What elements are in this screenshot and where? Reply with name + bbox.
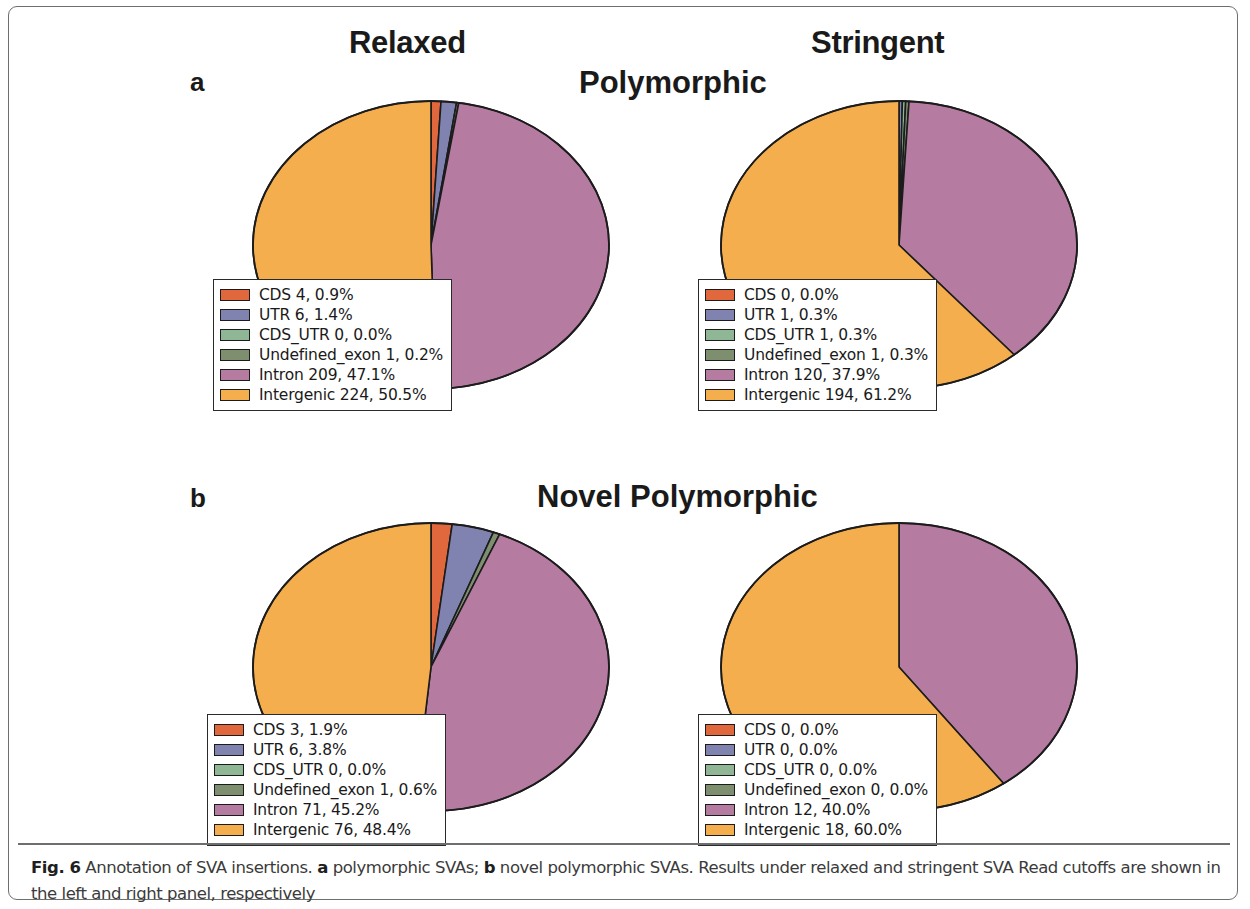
legend-label: CDS_UTR 1, 0.3%: [744, 326, 877, 344]
legend-swatch-intron: [705, 369, 735, 381]
pie-chart-polymorphic-stringent: CDS 0, 0.0%UTR 1, 0.3%CDS_UTR 1, 0.3%Und…: [709, 97, 1089, 397]
legend-row: Intron 12, 40.0%: [705, 800, 928, 820]
legend-swatch-intron: [220, 369, 250, 381]
legend-swatch-intergenic: [705, 824, 735, 836]
legend-label: Undefined_exon 1, 0.6%: [253, 781, 437, 799]
figure-caption: Fig. 6 Annotation of SVA insertions. a p…: [31, 855, 1221, 907]
pie-legend-a-relaxed: CDS 4, 0.9%UTR 6, 1.4%CDS_UTR 0, 0.0%Und…: [213, 279, 452, 411]
legend-swatch-cds: [214, 724, 244, 736]
row-title-novel-polymorphic: Novel Polymorphic: [537, 479, 818, 515]
legend-swatch-intergenic: [705, 389, 735, 401]
pie-legend-b-relaxed: CDS 3, 1.9%UTR 6, 3.8%CDS_UTR 0, 0.0%Und…: [207, 714, 446, 846]
legend-row: CDS 0, 0.0%: [705, 720, 928, 740]
legend-label: CDS 0, 0.0%: [744, 721, 838, 739]
legend-swatch-cds: [220, 289, 250, 301]
legend-swatch-intron: [705, 804, 735, 816]
caption-text-2: polymorphic SVAs;: [328, 858, 484, 877]
panel-letter-a: a: [190, 67, 204, 98]
legend-row: CDS_UTR 1, 0.3%: [705, 325, 928, 345]
legend-label: CDS 3, 1.9%: [253, 721, 347, 739]
legend-swatch-cds: [705, 724, 735, 736]
legend-swatch-intergenic: [214, 824, 244, 836]
legend-row: Undefined_exon 0, 0.0%: [705, 780, 928, 800]
legend-label: Intron 12, 40.0%: [744, 801, 870, 819]
legend-swatch-utr: [705, 744, 735, 756]
caption-text-1: Annotation of SVA insertions.: [81, 858, 318, 877]
legend-label: CDS 4, 0.9%: [259, 286, 353, 304]
figure-frame: Relaxed Stringent a Polymorphic CDS 4, 0…: [8, 6, 1238, 900]
legend-row: Undefined_exon 1, 0.2%: [220, 345, 443, 365]
legend-swatch-utr: [705, 309, 735, 321]
legend-row: Undefined_exon 1, 0.6%: [214, 780, 437, 800]
legend-label: Undefined_exon 0, 0.0%: [744, 781, 928, 799]
legend-label: Intergenic 194, 61.2%: [744, 386, 912, 404]
legend-row: Intron 71, 45.2%: [214, 800, 437, 820]
column-header-relaxed: Relaxed: [349, 25, 466, 61]
legend-row: CDS_UTR 0, 0.0%: [214, 760, 437, 780]
legend-swatch-utr: [220, 309, 250, 321]
legend-label: UTR 6, 1.4%: [259, 306, 352, 324]
legend-row: CDS 4, 0.9%: [220, 285, 443, 305]
pie-chart-novel-polymorphic-stringent: CDS 0, 0.0%UTR 0, 0.0%CDS_UTR 0, 0.0%Und…: [709, 519, 1089, 819]
legend-row: UTR 0, 0.0%: [705, 740, 928, 760]
caption-bold-a: a: [317, 858, 328, 877]
caption-figure-number: Fig. 6: [31, 858, 81, 877]
legend-swatch-undefined_exon: [214, 784, 244, 796]
column-header-stringent: Stringent: [811, 25, 944, 61]
pie-slice-intron: [431, 103, 609, 389]
legend-row: CDS 3, 1.9%: [214, 720, 437, 740]
legend-label: Intron 209, 47.1%: [259, 366, 395, 384]
legend-row: Intergenic 194, 61.2%: [705, 385, 928, 405]
pie-chart-polymorphic-relaxed: CDS 4, 0.9%UTR 6, 1.4%CDS_UTR 0, 0.0%Und…: [241, 97, 621, 397]
legend-label: CDS_UTR 0, 0.0%: [259, 326, 392, 344]
legend-label: Intron 120, 37.9%: [744, 366, 880, 384]
legend-row: Intergenic 76, 48.4%: [214, 820, 437, 840]
legend-row: UTR 6, 3.8%: [214, 740, 437, 760]
panel-letter-b: b: [190, 483, 206, 514]
legend-label: Undefined_exon 1, 0.3%: [744, 346, 928, 364]
legend-label: Intergenic 224, 50.5%: [259, 386, 427, 404]
legend-swatch-cds_utr: [705, 329, 735, 341]
legend-row: UTR 1, 0.3%: [705, 305, 928, 325]
legend-label: Intergenic 18, 60.0%: [744, 821, 902, 839]
legend-swatch-undefined_exon: [705, 784, 735, 796]
caption-divider: [18, 843, 1230, 845]
legend-row: CDS 0, 0.0%: [705, 285, 928, 305]
pie-chart-novel-polymorphic-relaxed: CDS 3, 1.9%UTR 6, 3.8%CDS_UTR 0, 0.0%Und…: [241, 519, 621, 819]
legend-swatch-utr: [214, 744, 244, 756]
legend-row: Intron 209, 47.1%: [220, 365, 443, 385]
legend-label: UTR 6, 3.8%: [253, 741, 346, 759]
legend-label: Undefined_exon 1, 0.2%: [259, 346, 443, 364]
legend-row: CDS_UTR 0, 0.0%: [705, 760, 928, 780]
legend-row: Intron 120, 37.9%: [705, 365, 928, 385]
row-title-polymorphic: Polymorphic: [579, 65, 767, 101]
legend-swatch-cds: [705, 289, 735, 301]
legend-label: UTR 0, 0.0%: [744, 741, 837, 759]
legend-row: CDS_UTR 0, 0.0%: [220, 325, 443, 345]
caption-bold-b: b: [484, 858, 495, 877]
legend-row: Intergenic 224, 50.5%: [220, 385, 443, 405]
legend-row: UTR 6, 1.4%: [220, 305, 443, 325]
legend-label: UTR 1, 0.3%: [744, 306, 837, 324]
legend-label: CDS_UTR 0, 0.0%: [744, 761, 877, 779]
pie-legend-a-stringent: CDS 0, 0.0%UTR 1, 0.3%CDS_UTR 1, 0.3%Und…: [698, 279, 937, 411]
legend-row: Intergenic 18, 60.0%: [705, 820, 928, 840]
legend-swatch-intron: [214, 804, 244, 816]
legend-swatch-undefined_exon: [220, 349, 250, 361]
legend-label: CDS 0, 0.0%: [744, 286, 838, 304]
legend-swatch-intergenic: [220, 389, 250, 401]
legend-label: CDS_UTR 0, 0.0%: [253, 761, 386, 779]
legend-swatch-cds_utr: [214, 764, 244, 776]
pie-legend-b-stringent: CDS 0, 0.0%UTR 0, 0.0%CDS_UTR 0, 0.0%Und…: [698, 714, 937, 846]
legend-swatch-cds_utr: [220, 329, 250, 341]
legend-swatch-cds_utr: [705, 764, 735, 776]
legend-row: Undefined_exon 1, 0.3%: [705, 345, 928, 365]
legend-swatch-undefined_exon: [705, 349, 735, 361]
legend-label: Intergenic 76, 48.4%: [253, 821, 411, 839]
legend-label: Intron 71, 45.2%: [253, 801, 379, 819]
